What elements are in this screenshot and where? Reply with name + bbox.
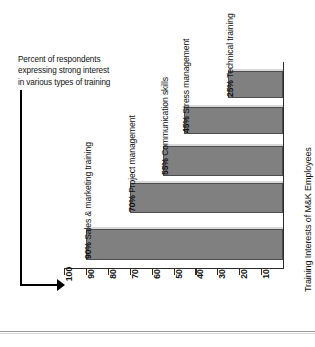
- axis-tick-label: 70: [125, 274, 135, 300]
- axis-tick-label: 50: [169, 274, 179, 300]
- value-axis-baseline: [283, 62, 284, 269]
- footer-divider-bottom: [0, 333, 315, 334]
- bar: [184, 107, 283, 134]
- axis-tick-label-text: 30: [217, 269, 227, 279]
- axis-tick-label: 20: [234, 274, 244, 300]
- bar: [130, 183, 283, 213]
- bar-value-label: 25% Technical training: [225, 13, 235, 97]
- axis-tick-label-text: 10: [261, 269, 271, 279]
- axis-tick-label-text: 20: [239, 269, 249, 279]
- axis-tick-label-text: 40: [195, 269, 205, 279]
- chart-canvas: Percent of respondents expressing strong…: [0, 0, 315, 347]
- bar: [86, 229, 283, 260]
- axis-tick-label-text: 80: [108, 269, 118, 279]
- axis-annotation: Percent of respondents expressing strong…: [18, 54, 90, 88]
- axis-tick-label: 30: [212, 274, 222, 300]
- bar-value-label: 90% Sales & marketing training: [83, 142, 93, 259]
- axis-tick-label: 60: [147, 274, 157, 300]
- annotation-line-3: in various types of training: [18, 77, 90, 88]
- footer-divider-top: [0, 331, 315, 332]
- axis-tick-label-text: 90: [86, 269, 96, 279]
- axis-tick-label: 90: [81, 274, 91, 300]
- chart-title: Training Interests of M&K Employees: [303, 147, 313, 292]
- annotation-arrow-stem: [20, 90, 22, 286]
- axis-tick-label-text: 70: [130, 269, 140, 279]
- axis-tick-label-text: 50: [174, 269, 184, 279]
- axis-tick-label-text: 60: [152, 269, 162, 279]
- bar: [228, 71, 283, 98]
- bar-value-label: 55% Communication skills: [160, 77, 170, 175]
- axis-tick-label: 10: [256, 274, 266, 300]
- annotation-line-1: Percent of respondents: [18, 54, 90, 65]
- axis-tick-label: 40: [190, 274, 200, 300]
- axis-tick-label-text: 100: [64, 267, 74, 281]
- annotation-arrow-shaft: [20, 284, 58, 286]
- axis-tick-label: 80: [103, 274, 113, 300]
- annotation-line-2: expressing strong interest: [18, 65, 90, 76]
- axis-tick-label: 100: [59, 274, 69, 300]
- bar-value-label: 70% Project management: [127, 115, 137, 212]
- bar-value-label: 45% Stress management: [181, 39, 191, 133]
- bar: [163, 146, 283, 176]
